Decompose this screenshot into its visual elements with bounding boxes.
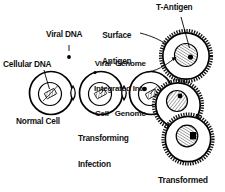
label-normal-cell: Normal Cell — [16, 117, 60, 126]
viral-dna-dot — [67, 45, 71, 59]
label-integrated-line2: Integrated Into — [94, 85, 147, 93]
label-transforming-line2: Infection — [78, 160, 129, 169]
label-cellular-dna: Cellular DNA — [3, 60, 51, 69]
cell-normal — [30, 72, 73, 115]
t-antigen-dot-top — [188, 54, 193, 59]
cell-transformed-top — [161, 31, 212, 82]
label-transforming-infection: Transforming Infection — [78, 117, 129, 185]
label-integrated-line1: Viral Genome — [94, 60, 147, 68]
figure-canvas: Cellular DNA Viral DNA Surface Antigen T… — [0, 0, 225, 192]
label-viral-dna: Viral DNA — [46, 30, 82, 39]
label-transforming-line1: Transforming — [78, 134, 129, 143]
cell-transformed-bottom — [163, 114, 213, 164]
t-antigen-dot-middle — [178, 94, 183, 99]
label-transformed-line1: Transformed — [158, 176, 208, 185]
t-antigen-dot-bottom — [190, 132, 196, 139]
label-surface-antigen-line1: Surface — [102, 31, 131, 40]
lens-arrow-1 — [71, 86, 76, 100]
label-transformed-cells: Transformed Cells — [158, 158, 208, 192]
label-t-antigen: T-Antigen — [156, 3, 192, 12]
